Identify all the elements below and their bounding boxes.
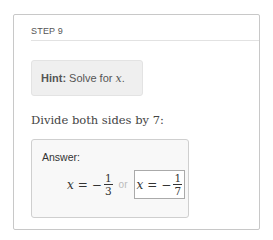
hint-text: Solve for xyxy=(69,72,112,84)
step-card: STEP 9 Hint: Solve for x. Divide both si… xyxy=(13,14,260,230)
solution-2-variable: x xyxy=(137,178,144,192)
solution-2-equals: = xyxy=(147,178,157,192)
step-divider xyxy=(31,40,259,41)
solution-1-fraction: 1 3 xyxy=(104,172,113,197)
solution-2-sign: − xyxy=(161,178,171,192)
solution-2-denominator: 7 xyxy=(174,185,181,197)
solution-1-sign: − xyxy=(92,178,102,192)
separator-or: or xyxy=(119,179,128,190)
answer-math: x = − 1 3 or x = − 1 7 xyxy=(67,170,185,199)
solution-2-fraction: 1 7 xyxy=(173,172,182,197)
instruction-text: Divide both sides by 7: xyxy=(31,113,164,127)
step-label: STEP 9 xyxy=(31,26,63,36)
hint-box[interactable]: Hint: Solve for x. xyxy=(31,60,143,96)
solution-1-denominator: 3 xyxy=(105,185,112,197)
solution-2-numerator: 1 xyxy=(173,172,182,185)
hint-suffix: . xyxy=(122,72,125,84)
answer-box: Answer: x = − 1 3 or x = − 1 7 xyxy=(31,139,189,218)
hint-bold-label: Hint: xyxy=(41,72,66,84)
solution-1-equals: = xyxy=(78,178,88,192)
answer-label: Answer: xyxy=(42,151,80,163)
solution-1-numerator: 1 xyxy=(104,172,113,185)
solution-1-variable: x xyxy=(67,178,74,192)
solution-2-highlighted: x = − 1 7 xyxy=(134,170,186,199)
